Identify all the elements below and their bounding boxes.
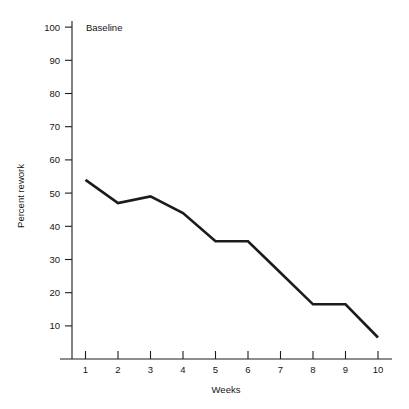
y-tick-label: 30 [49, 254, 60, 265]
y-axis-title: Percent rework [15, 164, 26, 228]
y-tick-label: 60 [49, 154, 60, 165]
y-tick-label: 20 [49, 287, 60, 298]
x-tick-label: 5 [213, 364, 218, 375]
x-tick-label: 1 [83, 364, 88, 375]
y-tick-label: 40 [49, 221, 60, 232]
y-tick-label: 70 [49, 121, 60, 132]
x-tick-label: 2 [115, 364, 120, 375]
y-tick-label: 80 [49, 88, 60, 99]
y-tick-label: 100 [44, 22, 60, 33]
chart-figure: 10 20 30 40 50 60 70 80 90 100 1 [0, 0, 409, 409]
x-tick-label: 9 [343, 364, 348, 375]
y-axis-ticks: 10 20 30 40 50 60 70 80 90 100 [44, 22, 72, 332]
x-tick-label: 7 [278, 364, 283, 375]
x-tick-label: 4 [180, 364, 185, 375]
series-line-percent-rework [86, 180, 379, 338]
baseline-annotation: Baseline [86, 22, 122, 33]
line-chart: 10 20 30 40 50 60 70 80 90 100 1 [0, 0, 409, 409]
x-tick-label: 3 [148, 364, 153, 375]
x-tick-label: 10 [373, 364, 384, 375]
y-tick-label: 90 [49, 55, 60, 66]
y-tick-label: 50 [49, 188, 60, 199]
x-tick-label: 8 [310, 364, 315, 375]
x-tick-label: 6 [245, 364, 250, 375]
y-tick-label: 10 [49, 320, 60, 331]
x-axis-title: Weeks [212, 384, 241, 395]
page-caption-cropped [0, 397, 409, 409]
x-axis-ticks: 1 2 3 4 5 6 7 8 9 10 [83, 351, 383, 375]
